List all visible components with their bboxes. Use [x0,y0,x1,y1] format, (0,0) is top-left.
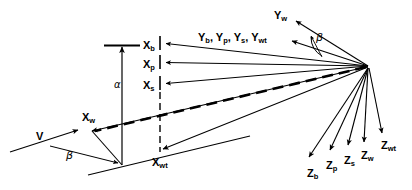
label-z-s: Zs [344,155,355,166]
label-beta-upper: β [316,32,323,43]
label-x-p: Xp [143,59,155,70]
label-z-p: Zp [326,160,337,171]
label-alpha: α [114,80,121,90]
label-z-wt: Zwt [381,140,396,151]
label-velocity-v: V [36,131,43,142]
label-z-w: Zw [361,150,374,161]
axis-line-x-s [166,66,368,84]
label-z-b: Zb [307,168,318,179]
label-beta-lower: β [66,150,73,161]
axis-line-z-b [309,68,368,157]
vector-diagram: Xb Xp Xs Xw Xwt Yw Yb, Yp, Ys, Ywt Zb Zp… [0,0,412,190]
axis-line-x-w [92,67,368,132]
axis-line-z-wt [369,68,382,133]
label-x-w: Xw [82,112,95,123]
label-x-b: Xb [143,40,155,51]
label-x-s: Xs [143,80,155,91]
ground-plane-front-edge [88,136,250,175]
label-y-group: Yb, Yp, Ys, Ywt [198,32,267,43]
label-x-wt: Xwt [152,157,168,168]
label-y-w: Yw [274,10,287,21]
